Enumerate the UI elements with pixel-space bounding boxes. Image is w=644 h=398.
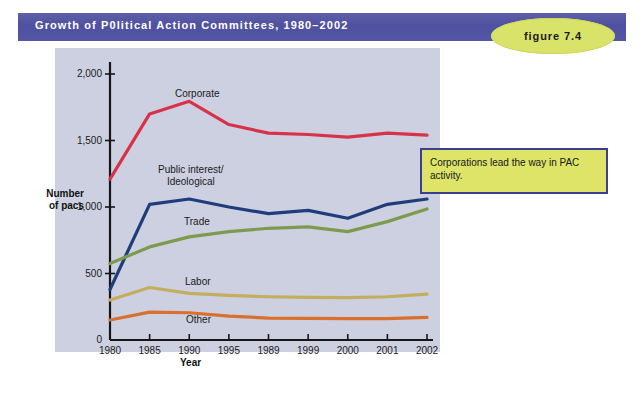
figure-badge-label: figure 7.4	[491, 18, 615, 54]
series-label-line: Ideological	[158, 176, 224, 188]
series-label-line: Labor	[185, 276, 211, 288]
series-label-line: Corporate	[175, 88, 219, 100]
y-tick-label: 1,500	[56, 135, 102, 146]
x-tick-label: 1985	[130, 345, 170, 356]
series-label-corporate: Corporate	[175, 88, 219, 100]
y-tick-label: 500	[56, 268, 102, 279]
series-label-other: Other	[186, 314, 211, 326]
series-label-labor: Labor	[185, 276, 211, 288]
page-title: Growth of P0litical Action Committees, 1…	[35, 19, 348, 31]
chart-panel	[55, 48, 440, 352]
x-tick-label: 1999	[288, 345, 328, 356]
callout-box: Corporations lead the way in PAC activit…	[420, 148, 608, 194]
series-label-line: Other	[186, 314, 211, 326]
y-tick-label: 0	[56, 334, 102, 345]
callout-text: Corporations lead the way in PAC activit…	[430, 156, 598, 182]
x-tick-label: 1989	[249, 345, 289, 356]
y-axis-title-line1: Number	[46, 188, 84, 199]
y-tick-label: 1,000	[56, 201, 102, 212]
series-line-trade	[110, 209, 427, 264]
x-tick-label: 1995	[209, 345, 249, 356]
series-label-trade: Trade	[184, 216, 210, 228]
series-label-public-interest: Public interest/Ideological	[158, 164, 224, 188]
series-line-labor	[110, 287, 427, 300]
series-line-other	[110, 312, 427, 320]
series-label-line: Trade	[184, 216, 210, 228]
header-banner: Growth of P0litical Action Committees, 1…	[18, 13, 626, 41]
x-tick-label: 2000	[328, 345, 368, 356]
x-axis-title: Year	[180, 357, 201, 368]
series-label-line: Public interest/	[158, 164, 224, 176]
x-tick-label: 2002	[407, 345, 447, 356]
figure-badge: figure 7.4	[491, 18, 615, 54]
x-tick-label: 1980	[90, 345, 130, 356]
line-chart	[55, 48, 440, 352]
x-tick-label: 2001	[367, 345, 407, 356]
y-tick-label: 2,000	[56, 68, 102, 79]
x-tick-label: 1990	[169, 345, 209, 356]
